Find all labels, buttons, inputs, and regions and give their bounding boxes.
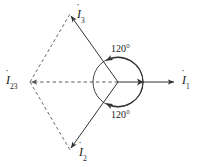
construction-line-upper-left [30,14,70,82]
angle-arc-lower [107,82,144,106]
phasor-diagram-figure: ̇I3 ̇I1 ̇I2 ̇I23 120° 120° [0,0,207,167]
angle-label-upper: 120° [111,44,130,54]
vector-label-i3: ̇I3 [77,8,85,23]
vector-label-i23-sub: 23 [10,82,18,91]
vector-label-i1-sub: 1 [186,82,190,91]
vector-label-i2: ̇I2 [79,146,87,161]
construction-line-lower-left [30,82,70,150]
vector-label-i3-sub: 3 [81,16,85,25]
phasor-diagram-canvas [0,0,207,167]
angle-label-lower: 120° [111,110,130,120]
vector-label-i2-sub: 2 [83,154,87,163]
angle-arc-upper [107,58,144,82]
vector-label-i23: ̇I23 [6,74,18,89]
vector-label-i1: ̇I1 [182,74,190,89]
